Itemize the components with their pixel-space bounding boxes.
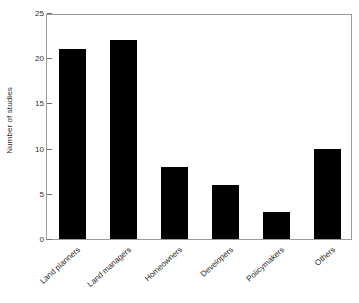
bar bbox=[161, 167, 188, 239]
x-tick-label: Land planners bbox=[38, 245, 82, 286]
y-axis-title: Number of studies bbox=[0, 0, 18, 240]
y-tick-mark bbox=[47, 149, 52, 150]
y-axis-title-text: Number of studies bbox=[5, 87, 14, 154]
bar bbox=[212, 185, 239, 239]
x-axis-labels: Land plannersLand managersHomeownersDeve… bbox=[46, 241, 352, 303]
bar-chart-figure: Number of studies 0510152025 Land planne… bbox=[0, 0, 359, 303]
y-tick-label: 0 bbox=[40, 235, 44, 244]
x-tick-label: Developers bbox=[198, 245, 234, 279]
y-tick-label: 5 bbox=[40, 189, 44, 198]
y-tick-mark bbox=[47, 194, 52, 195]
y-tick-label: 15 bbox=[35, 99, 44, 108]
y-tick-label: 20 bbox=[35, 54, 44, 63]
x-tick-label: Policymakers bbox=[244, 245, 285, 284]
y-tick-mark bbox=[47, 239, 52, 240]
x-tick-label: Land managers bbox=[85, 245, 132, 289]
bar bbox=[314, 149, 341, 239]
bar bbox=[59, 49, 86, 239]
y-tick-mark bbox=[47, 58, 52, 59]
y-tick-label: 10 bbox=[35, 144, 44, 153]
x-tick-label: Others bbox=[313, 245, 337, 268]
plot-area: 0510152025 bbox=[46, 14, 352, 240]
y-tick-mark bbox=[47, 13, 52, 14]
x-tick-label: Homeowners bbox=[142, 245, 183, 283]
bar bbox=[110, 40, 137, 239]
y-tick-label: 25 bbox=[35, 9, 44, 18]
y-tick-mark bbox=[47, 103, 52, 104]
bar bbox=[263, 212, 290, 239]
